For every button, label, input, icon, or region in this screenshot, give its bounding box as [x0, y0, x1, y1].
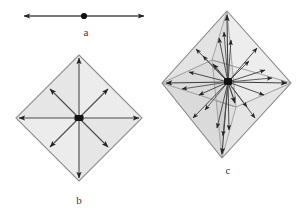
- diamond-center-hub: [75, 115, 84, 121]
- panel-a-label: a: [84, 26, 89, 38]
- panel-a-segment: a: [24, 13, 144, 38]
- panel-b-label: b: [76, 194, 82, 206]
- figure-panel: a b: [0, 0, 304, 216]
- panel-b-diamond: b: [16, 55, 142, 206]
- figure-diagram: a b: [0, 0, 304, 216]
- segment-center-vertex: [81, 13, 87, 19]
- panel-c-label: c: [226, 164, 231, 176]
- octa-center-hub: [224, 78, 232, 85]
- panel-c-octahedron: c: [162, 11, 291, 176]
